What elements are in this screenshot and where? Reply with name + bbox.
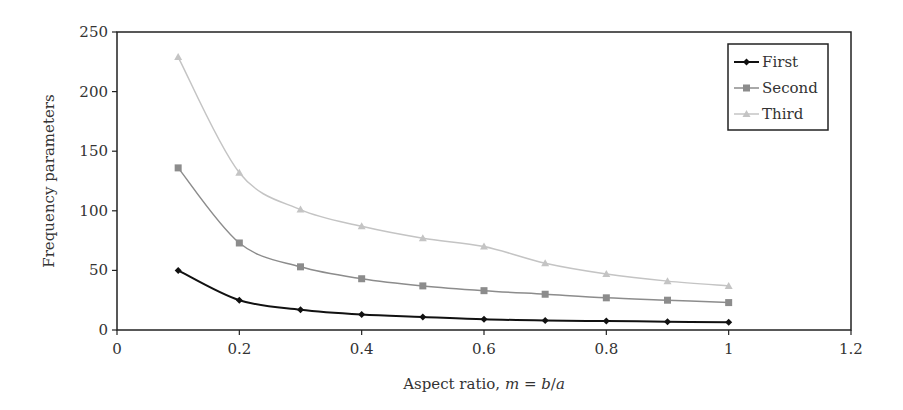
- square-marker-icon: [542, 291, 549, 298]
- diamond-marker-icon: [297, 306, 304, 313]
- x-tick-label: 0: [112, 340, 122, 358]
- legend-label: Second: [762, 79, 818, 97]
- y-tick-label: 200: [79, 83, 108, 101]
- x-tick-label: 0.6: [472, 340, 496, 358]
- x-title-var-b: b: [541, 375, 551, 393]
- diamond-marker-icon: [419, 313, 426, 320]
- y-axis-title: Frequency parameters: [40, 94, 58, 267]
- x-axis-title: Aspect ratio, m = b/a: [402, 375, 565, 393]
- series-line: [178, 57, 729, 286]
- y-axis: 050100150200250: [79, 23, 117, 339]
- x-title-eq: =: [519, 375, 541, 393]
- y-tick-label: 50: [89, 261, 108, 279]
- diamond-marker-icon: [542, 317, 549, 324]
- series-layer: [174, 53, 733, 326]
- diamond-marker-icon: [603, 318, 610, 325]
- y-tick-label: 150: [79, 142, 108, 160]
- square-marker-icon: [419, 282, 426, 289]
- x-title-prefix: Aspect ratio,: [402, 375, 505, 393]
- x-title-var-a: a: [556, 375, 565, 393]
- square-marker-icon: [358, 275, 365, 282]
- diamond-marker-icon: [725, 319, 732, 326]
- square-marker-icon: [603, 294, 610, 301]
- series-third: [174, 53, 733, 289]
- square-marker-icon: [175, 164, 182, 171]
- square-marker-icon: [297, 263, 304, 270]
- x-title-var-m: m: [505, 375, 519, 393]
- series-first: [175, 267, 733, 326]
- diamond-marker-icon: [664, 318, 671, 325]
- square-marker-icon: [664, 297, 671, 304]
- x-tick-label: 0.8: [594, 340, 618, 358]
- legend-label: First: [762, 53, 798, 71]
- x-tick-label: 1.2: [839, 340, 863, 358]
- x-axis: 00.20.40.60.811.2: [112, 330, 863, 358]
- diamond-marker-icon: [236, 297, 243, 304]
- diamond-marker-icon: [358, 311, 365, 318]
- y-tick-label: 100: [79, 202, 108, 220]
- x-tick-label: 0.4: [350, 340, 374, 358]
- square-marker-icon: [236, 239, 243, 246]
- series-line: [178, 168, 729, 303]
- x-tick-label: 0.2: [227, 340, 251, 358]
- chart: 050100150200250 00.20.40.60.811.2 Freque…: [0, 0, 903, 410]
- legend: FirstSecondThird: [728, 44, 828, 130]
- diamond-marker-icon: [175, 267, 182, 274]
- triangle-marker-icon: [174, 53, 182, 60]
- y-tick-label: 0: [98, 321, 108, 339]
- square-marker-icon: [743, 85, 750, 92]
- x-tick-label: 1: [724, 340, 734, 358]
- legend-label: Third: [762, 105, 804, 123]
- square-marker-icon: [725, 299, 732, 306]
- y-tick-label: 250: [79, 23, 108, 41]
- diamond-marker-icon: [481, 316, 488, 323]
- series-second: [175, 164, 733, 306]
- square-marker-icon: [481, 287, 488, 294]
